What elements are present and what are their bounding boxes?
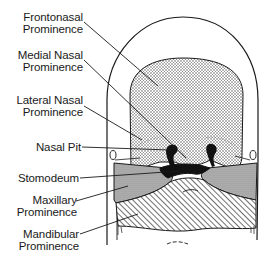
label-medial-nasal: Medial Nasal Prominence xyxy=(18,49,83,73)
label-maxillary: Maxillary Prominence xyxy=(17,194,77,218)
facial-prominences-diagram: Frontonasal Prominence Medial Nasal Prom… xyxy=(0,0,267,256)
leader-frontonasal xyxy=(84,22,158,86)
label-mandibular: Mandibular Prominence xyxy=(19,228,79,252)
eye-right xyxy=(250,151,256,160)
label-lateral-nasal: Lateral Nasal Prominence xyxy=(17,94,83,118)
label-frontonasal: Frontonasal Prominence xyxy=(23,11,83,35)
label-nasal-pit: Nasal Pit xyxy=(36,141,81,153)
label-stomodeum: Stomodeum xyxy=(18,172,79,184)
frontonasal-region xyxy=(130,58,243,170)
eye-left xyxy=(110,151,116,160)
